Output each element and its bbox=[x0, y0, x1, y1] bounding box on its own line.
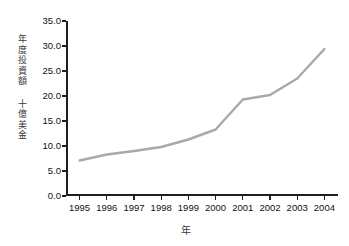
y-axis-title-char: 資 bbox=[17, 66, 27, 77]
x-axis-title-label: 年 bbox=[181, 225, 191, 236]
y-axis-title-char: 十 bbox=[17, 99, 27, 110]
y-axis-tick-label: 15.0 bbox=[43, 116, 62, 126]
y-axis-title-segment-2: 十 億 美 金 bbox=[17, 99, 27, 141]
x-axis-tick bbox=[242, 196, 243, 200]
y-axis-tick-label: 25.0 bbox=[43, 66, 62, 76]
x-axis-tick bbox=[324, 196, 325, 200]
y-axis-tick-label: 0.0 bbox=[48, 191, 61, 201]
y-axis-tick-label: 5.0 bbox=[48, 166, 61, 176]
y-axis-title-char: 投 bbox=[17, 55, 27, 66]
x-axis-tick bbox=[188, 196, 189, 200]
x-axis-tick-label: 2000 bbox=[205, 203, 226, 213]
x-axis-tick bbox=[161, 196, 162, 200]
x-axis-tick bbox=[269, 196, 270, 200]
x-axis-tick bbox=[79, 196, 80, 200]
y-axis-tick-label: 30.0 bbox=[43, 41, 62, 51]
x-axis-tick-label: 1996 bbox=[96, 203, 117, 213]
plot-area: 0.05.010.015.020.025.030.035.0 bbox=[66, 21, 338, 196]
y-axis-tick-label: 10.0 bbox=[43, 141, 62, 151]
x-axis-tick-label: 1998 bbox=[151, 203, 172, 213]
x-axis-tick bbox=[133, 196, 134, 200]
x-axis-tick-label: 2003 bbox=[287, 203, 308, 213]
x-axis-tick bbox=[215, 196, 216, 200]
x-axis-title: 年 bbox=[0, 222, 349, 237]
x-axis-tick-label: 1999 bbox=[178, 203, 199, 213]
x-axis-tick bbox=[297, 196, 298, 200]
x-axis-tick-label: 2004 bbox=[314, 203, 335, 213]
x-axis-tick-label: 2001 bbox=[232, 203, 253, 213]
data-series-line bbox=[66, 21, 338, 196]
y-axis-title-char: 美 bbox=[17, 120, 27, 131]
y-axis-title-char: 年 bbox=[17, 34, 27, 45]
y-axis-title-char: 額 bbox=[17, 76, 27, 87]
y-axis-title-char: 億 bbox=[17, 109, 27, 120]
x-axis-tick-label: 1995 bbox=[69, 203, 90, 213]
y-axis-title-char: 金 bbox=[17, 130, 27, 141]
x-axis-tick bbox=[106, 196, 107, 200]
y-axis-title-segment-1: 年 度 投 資 額 bbox=[17, 34, 27, 87]
y-axis-tick-label: 35.0 bbox=[43, 16, 62, 26]
y-axis-title: 年 度 投 資 額 十 億 美 金 bbox=[14, 34, 30, 141]
y-axis-tick-label: 20.0 bbox=[43, 91, 62, 101]
x-axis-tick-label: 2002 bbox=[259, 203, 280, 213]
y-axis-title-char: 度 bbox=[17, 45, 27, 56]
x-axis-tick-label: 1997 bbox=[123, 203, 144, 213]
chart-container: 年 度 投 資 額 十 億 美 金 0.05.010.015.020.025.0… bbox=[0, 0, 349, 246]
